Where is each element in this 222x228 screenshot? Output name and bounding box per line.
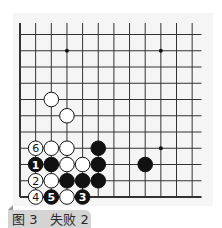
stone-disc bbox=[75, 173, 90, 188]
white-stone-2: 2 bbox=[28, 173, 43, 188]
white-stone bbox=[60, 108, 75, 123]
black-stone bbox=[91, 141, 106, 156]
black-stone bbox=[138, 157, 153, 172]
black-stone bbox=[60, 173, 75, 188]
star-point bbox=[159, 49, 163, 53]
stone-disc bbox=[60, 157, 75, 172]
stone-disc bbox=[44, 92, 59, 107]
white-stone bbox=[60, 157, 75, 172]
go-board: 612453 bbox=[0, 0, 222, 228]
black-stone bbox=[44, 157, 59, 172]
move-number: 4 bbox=[32, 191, 39, 204]
stone-disc bbox=[60, 173, 75, 188]
black-stone bbox=[91, 157, 106, 172]
stone-disc bbox=[91, 157, 106, 172]
stone-disc bbox=[60, 108, 75, 123]
stone-disc bbox=[138, 157, 153, 172]
move-number: 1 bbox=[32, 159, 40, 172]
white-stone bbox=[60, 190, 75, 205]
stone-disc bbox=[44, 157, 59, 172]
white-stone bbox=[60, 141, 75, 156]
move-number: 6 bbox=[32, 142, 39, 155]
stone-disc bbox=[91, 141, 106, 156]
stone-disc bbox=[44, 173, 59, 188]
stone-disc bbox=[60, 141, 75, 156]
stone-disc bbox=[91, 173, 106, 188]
white-stone bbox=[44, 173, 59, 188]
black-stone bbox=[91, 173, 106, 188]
stone-disc bbox=[44, 141, 59, 156]
white-stone bbox=[44, 141, 59, 156]
figure-caption-tab: 图 3 失败 2 bbox=[8, 210, 91, 228]
star-point bbox=[159, 146, 163, 150]
white-stone bbox=[44, 92, 59, 107]
star-point bbox=[65, 49, 69, 53]
black-stone bbox=[75, 173, 90, 188]
white-stone-6: 6 bbox=[28, 141, 43, 156]
stone-disc bbox=[60, 190, 75, 205]
move-number: 2 bbox=[32, 175, 39, 188]
figure-caption: 图 3 失败 2 bbox=[12, 211, 89, 228]
black-stone-5: 5 bbox=[44, 190, 59, 205]
black-stone-1: 1 bbox=[28, 157, 43, 172]
white-stone-4: 4 bbox=[28, 190, 43, 205]
move-number: 3 bbox=[79, 191, 87, 204]
move-number: 5 bbox=[47, 191, 55, 204]
black-stone-3: 3 bbox=[75, 190, 90, 205]
white-stone bbox=[75, 157, 90, 172]
stone-disc bbox=[75, 157, 90, 172]
